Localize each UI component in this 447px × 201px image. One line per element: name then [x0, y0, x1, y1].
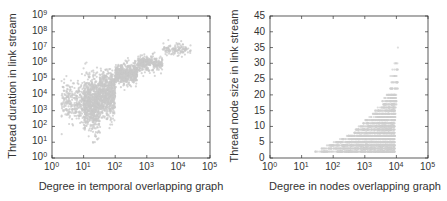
y-tick-label: 107: [32, 42, 47, 52]
x-axis-label-right: Degree in nodes overlapping graph: [264, 180, 446, 192]
x-axis-label-left: Degree in temporal overlapping graph: [38, 180, 224, 192]
x-tick-label: 105: [420, 162, 435, 172]
y-axis-label-right: Thread node size in link stream: [228, 6, 240, 166]
y-tick-label: 101: [32, 136, 47, 146]
scatter-points-left: [61, 39, 192, 144]
y-tick-label: 5: [259, 137, 265, 147]
y-tick-label: 108: [32, 26, 47, 36]
y-axis-label-left: Thread duration in link stream: [6, 6, 18, 166]
x-tick-label: 100: [44, 162, 59, 172]
y-tick-label: 109: [32, 10, 47, 20]
scatter-points-right: [314, 47, 399, 153]
x-tick-label: 100: [262, 162, 277, 172]
y-tick-label: 40: [254, 27, 265, 37]
x-tick-label: 104: [170, 162, 185, 172]
x-tick-label: 101: [76, 162, 91, 172]
y-tick-label: 35: [254, 43, 265, 53]
y-tick-label: 45: [254, 11, 265, 21]
y-tick-label: 25: [254, 74, 265, 84]
y-tick-label: 105: [32, 73, 47, 83]
y-tick-label: 104: [32, 89, 47, 99]
x-tick-label: 101: [294, 162, 309, 172]
y-tick-label: 20: [254, 90, 265, 100]
x-tick-label: 103: [139, 162, 154, 172]
y-tick-label: 15: [254, 106, 265, 116]
y-tick-label: 102: [32, 120, 47, 130]
chart-thread-node-size-vs-degree: Thread node size in link stream Degree i…: [224, 0, 447, 201]
y-tick-label: 100: [32, 152, 47, 162]
x-tick-label: 103: [357, 162, 372, 172]
y-tick-label: 106: [32, 57, 47, 67]
y-tick-label: 103: [32, 105, 47, 115]
x-tick-label: 104: [388, 162, 403, 172]
x-tick-label: 102: [107, 162, 122, 172]
y-tick-label: 30: [254, 58, 265, 68]
y-tick-label: 10: [254, 121, 265, 131]
x-tick-label: 102: [325, 162, 340, 172]
chart-thread-duration-vs-degree: Thread duration in link stream Degree in…: [0, 0, 224, 201]
x-tick-label: 105: [202, 162, 217, 172]
y-tick-label: 0: [259, 153, 265, 163]
